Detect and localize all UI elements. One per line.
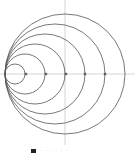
legend-swatch xyxy=(31,149,36,153)
axis-marker-2 xyxy=(45,73,48,76)
legend-label: · · · · · · xyxy=(40,148,68,153)
axis-marker-4 xyxy=(84,73,87,76)
legend: · · · · · · xyxy=(31,147,68,153)
tangent-circles-diagram xyxy=(0,0,135,153)
axis-marker-5 xyxy=(104,73,107,76)
axis-marker-3 xyxy=(65,73,68,76)
axis-marker-1 xyxy=(25,73,28,76)
